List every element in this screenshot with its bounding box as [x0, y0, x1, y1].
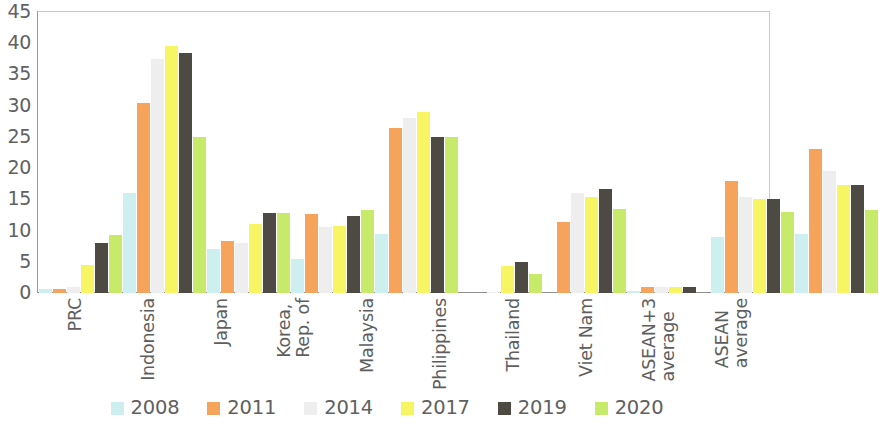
x-axis-label-cell: Viet Nam: [550, 294, 623, 404]
bar-group: [711, 12, 795, 293]
bar-2020-asean+3-average: [781, 212, 794, 293]
bar-2019-indonesia: [179, 53, 192, 293]
legend-swatch-icon: [207, 402, 220, 415]
legend-label: 2011: [227, 398, 276, 418]
x-axis-tick-label: ASEAN average: [713, 298, 751, 368]
y-axis: 454035302520151050: [0, 0, 36, 305]
bar-2014-asean-average: [823, 171, 836, 293]
bar-2019-thailand: [599, 189, 612, 293]
bar-2008-indonesia: [123, 193, 136, 293]
legend-label: 2008: [131, 398, 180, 418]
bar-group: [207, 12, 291, 293]
bar-2011-indonesia: [137, 103, 150, 293]
bar-2011-japan: [221, 241, 234, 293]
bar-2019-viet-nam: [683, 287, 696, 293]
x-axis-tick-label: Korea, Rep. of: [275, 298, 313, 358]
bar-2020-korea-rep-of: [361, 210, 374, 293]
x-axis-tick-label: Philippines: [431, 298, 450, 390]
legend-item-2019[interactable]: 2019: [498, 398, 567, 418]
y-axis-tick-label: 15: [7, 189, 31, 208]
y-axis-tick-label: 30: [7, 96, 31, 115]
x-axis-label-cell: Korea, Rep. of: [258, 294, 331, 404]
x-axis-label-cell: ASEAN average: [696, 294, 769, 404]
x-axis-tick-label: ASEAN+3 average: [640, 298, 678, 382]
bar-2014-viet-nam: [655, 287, 668, 293]
y-axis-tick-label: 20: [7, 158, 31, 177]
bar-group: [795, 12, 879, 293]
bar-2017-philippines: [501, 266, 514, 293]
bar-2019-prc: [95, 243, 108, 293]
legend-swatch-icon: [498, 402, 511, 415]
x-axis-label-cell: Thailand: [477, 294, 550, 404]
bar-2017-prc: [81, 265, 94, 293]
bar-group: [543, 12, 627, 293]
legend-label: 2017: [421, 398, 470, 418]
bars-layer: [39, 12, 769, 293]
bar-2017-japan: [249, 224, 262, 293]
x-axis-labels: PRCIndonesiaJapanKorea, Rep. ofMalaysiaP…: [39, 294, 769, 404]
bar-2011-asean-average: [809, 149, 822, 293]
y-axis-tick-label: 35: [7, 64, 31, 83]
bar-group: [39, 12, 123, 293]
bar-2020-philippines: [529, 274, 542, 293]
bar-2017-viet-nam: [669, 287, 682, 293]
y-axis-tick-label: 10: [7, 221, 31, 240]
y-axis-tick-label: 0: [19, 283, 31, 302]
bar-2008-korea-rep-of: [291, 259, 304, 293]
bar-2019-asean-average: [851, 185, 864, 293]
bar-2020-malaysia: [445, 137, 458, 293]
bar-2011-malaysia: [389, 128, 402, 293]
bar-2014-korea-rep-of: [319, 227, 332, 293]
y-axis-tick-label: 5: [19, 252, 31, 271]
bar-2008-asean-average: [795, 234, 808, 293]
bar-2017-thailand: [585, 197, 598, 293]
bar-2019-asean+3-average: [767, 199, 780, 293]
x-axis-label-cell: ASEAN+3 average: [623, 294, 696, 404]
bar-group: [123, 12, 207, 293]
x-axis-tick-label: Japan: [212, 298, 231, 346]
bar-2020-indonesia: [193, 137, 206, 293]
bar-2008-prc: [39, 289, 52, 293]
bar-2020-asean-average: [865, 210, 878, 293]
bar-2014-malaysia: [403, 118, 416, 293]
bar-group: [291, 12, 375, 293]
bar-2014-prc: [67, 287, 80, 293]
bar-2008-japan: [207, 249, 220, 293]
bar-2020-japan: [277, 213, 290, 293]
bar-group: [627, 12, 711, 293]
bar-2014-thailand: [571, 193, 584, 293]
x-axis-label-cell: Japan: [185, 294, 258, 404]
x-axis-label-cell: Malaysia: [331, 294, 404, 404]
bar-2011-korea-rep-of: [305, 214, 318, 293]
legend-label: 2020: [615, 398, 664, 418]
bar-2017-indonesia: [165, 46, 178, 293]
bar-2019-japan: [263, 213, 276, 293]
bar-2017-malaysia: [417, 112, 430, 293]
legend-item-2008[interactable]: 2008: [111, 398, 180, 418]
x-axis-tick-label: PRC: [66, 298, 85, 331]
legend-label: 2019: [518, 398, 567, 418]
legend-item-2017[interactable]: 2017: [401, 398, 470, 418]
x-axis-label-cell: Philippines: [404, 294, 477, 404]
bar-group: [459, 12, 543, 293]
bar-2008-malaysia: [375, 234, 388, 293]
bar-2014-indonesia: [151, 59, 164, 293]
legend-swatch-icon: [401, 402, 414, 415]
x-axis-tick-label: Indonesia: [139, 298, 158, 381]
x-axis-label-cell: PRC: [39, 294, 112, 404]
bar-2019-philippines: [515, 262, 528, 293]
y-axis-tick-label: 40: [7, 33, 31, 52]
legend-swatch-icon: [304, 402, 317, 415]
bar-2020-prc: [109, 235, 122, 293]
x-axis-tick-label: Viet Nam: [577, 298, 596, 377]
legend-label: 2014: [324, 398, 373, 418]
bar-2011-thailand: [557, 222, 570, 293]
bar-2011-viet-nam: [641, 287, 654, 293]
legend-item-2014[interactable]: 2014: [304, 398, 373, 418]
legend-swatch-icon: [595, 402, 608, 415]
bar-2011-prc: [53, 289, 66, 293]
legend-item-2020[interactable]: 2020: [595, 398, 664, 418]
bar-2008-asean+3-average: [711, 237, 724, 293]
legend-item-2011[interactable]: 2011: [207, 398, 276, 418]
